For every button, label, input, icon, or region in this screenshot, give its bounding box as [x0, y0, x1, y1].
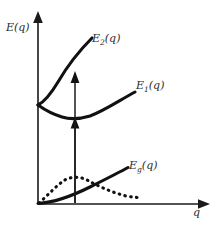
x-axis-label-text: q: [193, 206, 200, 219]
curve-label-eg-subscript: g: [137, 165, 142, 174]
curve-label-eg-arg: (q): [142, 159, 158, 172]
curve-label-e2-base: E: [92, 32, 100, 45]
curve-label-e1: E1(q): [136, 80, 164, 91]
curve-label-e1-base: E: [136, 79, 144, 92]
y-axis-arrowhead: [33, 11, 43, 23]
figure-container: E(q) q E2(q) E1(q) Eg(q): [0, 0, 219, 229]
transition-arrow-to-e2-head: [71, 71, 80, 83]
y-axis-label: E(q): [6, 22, 30, 33]
curve-label-e1-subscript: 1: [144, 85, 149, 94]
curve-label-e1-arg: (q): [149, 79, 165, 92]
curve-dotted-distribution: [39, 177, 141, 203]
curve-label-e2: E2(q): [92, 33, 120, 44]
curve-label-e2-arg: (q): [105, 32, 121, 45]
y-axis-label-text: E(q): [6, 21, 30, 34]
axes-group: [33, 11, 210, 209]
transition-arrow-to-e2: [71, 71, 80, 203]
curve-label-eg-base: E: [129, 159, 137, 172]
x-axis-label: q: [193, 207, 200, 218]
curve-e2: [38, 38, 92, 105]
curve-label-eg: Eg(q): [129, 160, 157, 171]
curve-label-e2-subscript: 2: [100, 38, 105, 47]
curve-e1: [38, 92, 135, 119]
curve-eg: [38, 168, 128, 204]
